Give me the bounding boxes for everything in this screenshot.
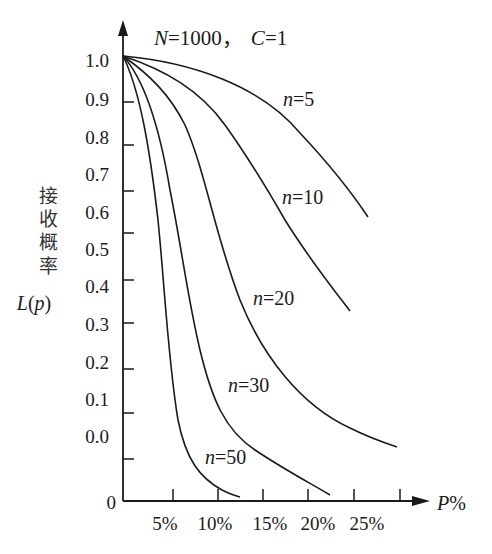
y-tick-label: 0.1: [85, 389, 109, 410]
x-axis: [123, 496, 430, 506]
curve-label-n30: n=30: [228, 374, 269, 396]
x-tick-label: 20%: [301, 513, 336, 534]
y-axis-label-char: 收: [39, 208, 58, 230]
y-axis-label: 接 收 概 率 L(p): [16, 185, 58, 315]
x-ticks: [173, 489, 400, 501]
y-axis-arrow-icon: [118, 20, 128, 36]
curve-n30: [123, 56, 330, 495]
y-axis-label-char: 接: [39, 185, 58, 207]
y-ticks: [123, 102, 134, 459]
x-tick-label: 10%: [198, 513, 233, 534]
y-tick-labels: 1.0 0.9 0.8 0.7 0.6 0.5 0.4 0.3 0.2 0.1 …: [85, 50, 116, 513]
x-axis-label: P%: [436, 492, 466, 514]
curves: [123, 56, 397, 497]
y-tick-label: 0.5: [85, 239, 109, 260]
y-axis-label-char: 概: [39, 231, 58, 253]
y-tick-label: 0: [107, 492, 117, 513]
x-axis-arrow-icon: [412, 496, 430, 506]
y-axis-label-formula: L(p): [16, 292, 51, 315]
y-axis: [118, 20, 128, 501]
x-tick-label: 25%: [350, 513, 385, 534]
curve-label-n20: n=20: [253, 287, 294, 309]
x-tick-labels: 5% 10% 15% 20% 25%: [152, 513, 384, 534]
y-tick-label: 0.6: [85, 202, 109, 223]
curve-label-n50: n=50: [205, 446, 246, 468]
y-tick-label: 0.4: [85, 276, 109, 297]
curve-label-n5: n=5: [283, 88, 314, 110]
y-axis-label-char: 率: [39, 255, 58, 277]
y-tick-label: 0.3: [85, 314, 109, 335]
y-tick-label: 0.0: [85, 426, 109, 447]
y-tick-label: 0.2: [85, 352, 109, 373]
curve-n10: [123, 56, 350, 311]
y-tick-label: 0.9: [85, 89, 109, 110]
oc-curve-chart: N=1000，C=1 1.0 0.9 0.8 0.7 0.6 0.5 0.4 0…: [0, 0, 492, 554]
x-tick-label: 15%: [253, 513, 288, 534]
curve-label-n10: n=10: [282, 186, 323, 208]
chart-title: N=1000，C=1: [153, 26, 287, 50]
y-tick-label: 0.8: [85, 127, 109, 148]
x-tick-label: 5%: [152, 513, 178, 534]
curve-labels: n=5 n=10 n=20 n=30 n=50: [205, 88, 323, 468]
y-tick-label: 1.0: [85, 50, 109, 71]
y-tick-label: 0.7: [85, 164, 109, 185]
